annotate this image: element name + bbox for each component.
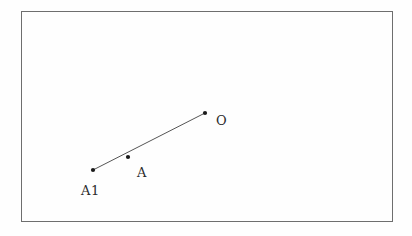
diagram-canvas: A1 A O [0, 0, 412, 236]
point-marker-a1 [91, 168, 95, 172]
point-marker-o [203, 111, 207, 115]
segment-A1-O [93, 113, 205, 170]
point-marker-a [126, 155, 130, 159]
point-label-o: O [216, 114, 227, 127]
point-label-a: A [137, 166, 147, 179]
point-label-a1: A1 [81, 184, 100, 197]
diagram-svg [0, 0, 412, 236]
figure-border [22, 12, 393, 222]
